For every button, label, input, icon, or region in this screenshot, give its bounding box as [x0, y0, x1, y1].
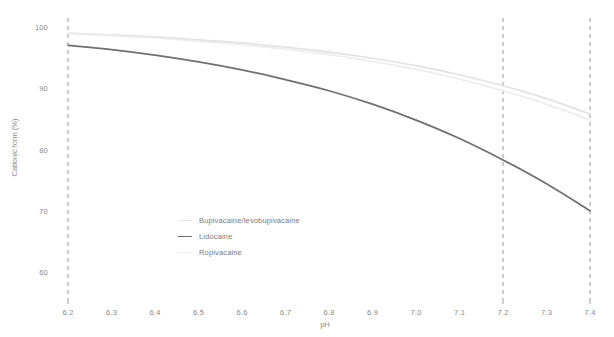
series-lines-group: [68, 33, 590, 211]
legend-item-label: Bupivacaine/levobupivacaine: [199, 216, 300, 225]
legend-item-label: Lidocaine: [199, 232, 232, 241]
legend-item-label: Ropivacaine: [199, 248, 242, 257]
x-axis-title: pH: [320, 320, 330, 329]
legend-swatch-icon: [178, 220, 192, 221]
x-axis-tick-label: 7.0: [410, 308, 421, 317]
y-axis-tick-label: 70: [20, 206, 48, 215]
x-axis-tick-label: 6.9: [367, 308, 378, 317]
series-line-bupivacaine-levobupivacaine: [68, 33, 590, 114]
x-axis-tick-label: 7.2: [497, 308, 508, 317]
x-axis-tick-label: 6.5: [193, 308, 204, 317]
x-axis-tick-label: 6.6: [236, 308, 247, 317]
x-axis-tick-label: 7.3: [541, 308, 552, 317]
x-axis-tick-label: 6.8: [323, 308, 334, 317]
legend-swatch-icon: [178, 236, 192, 237]
y-axis-tick-label: 80: [20, 145, 48, 154]
x-axis-tick-label: 6.4: [149, 308, 160, 317]
tick-marks-group: [68, 300, 590, 304]
series-line-ropivacaine: [68, 34, 590, 120]
y-axis-tick-label: 100: [20, 23, 48, 32]
y-axis-title: Cationic form (%): [10, 108, 19, 188]
y-axis-tick-label: 90: [20, 84, 48, 93]
plot-area: [0, 0, 614, 337]
legend-item[interactable]: Lidocaine: [178, 228, 300, 244]
x-axis-tick-label: 6.7: [280, 308, 291, 317]
reference-lines-group: [68, 18, 590, 300]
x-axis-tick-label: 6.2: [62, 308, 73, 317]
y-axis-tick-label: 60: [20, 268, 48, 277]
legend-item[interactable]: Bupivacaine/levobupivacaine: [178, 212, 300, 228]
series-line-lidocaine: [68, 45, 590, 210]
x-axis-tick-label: 7.4: [584, 308, 595, 317]
chart-container: 10090807060 6.26.36.46.56.66.76.86.97.07…: [0, 0, 614, 337]
x-axis-tick-label: 7.1: [454, 308, 465, 317]
chart-legend: Bupivacaine/levobupivacaineLidocaineRopi…: [178, 212, 300, 260]
legend-swatch-icon: [178, 252, 192, 253]
legend-item[interactable]: Ropivacaine: [178, 244, 300, 260]
x-axis-tick-label: 6.3: [106, 308, 117, 317]
